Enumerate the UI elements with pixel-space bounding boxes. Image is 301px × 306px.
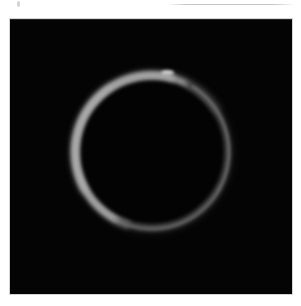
scan-speck-icon [17,1,20,7]
ring-bright-bead-icon [161,70,174,75]
black-image-panel [10,19,292,294]
faint-horizontal-rule-icon [168,4,296,5]
panel-top-seam [10,19,292,20]
ring-interior-shadow [82,82,222,222]
page-root [0,0,301,306]
